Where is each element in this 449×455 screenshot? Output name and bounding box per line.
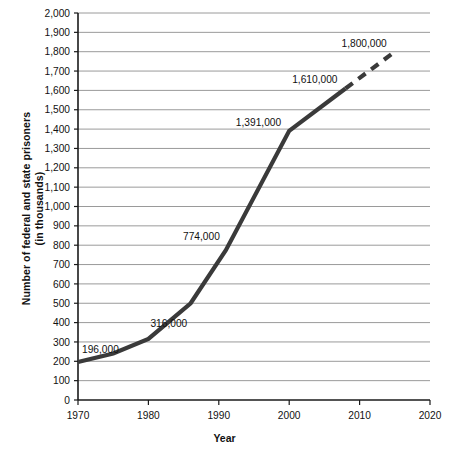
y-tick-label: 700: [53, 259, 70, 270]
data-label: 1,800,000: [341, 38, 387, 49]
prisoners-line-chart: 01002003004005006007008009001,0001,1001,…: [0, 0, 449, 455]
y-tick-label: 1,500: [45, 104, 71, 115]
data-label: 196,000: [82, 344, 119, 355]
y-tick-label: 1,400: [45, 124, 71, 135]
y-tick-label: 1,800: [45, 46, 71, 57]
y-tick-label: 1,300: [45, 143, 71, 154]
data-label: 1,391,000: [236, 117, 282, 128]
data-annotations: 196,000316,000774,0001,391,0001,610,0001…: [82, 38, 387, 355]
y-axis-title: Number of federal and state prisoners (i…: [20, 99, 45, 319]
y-tick-label: 1,000: [45, 201, 71, 212]
x-tick-label: 2000: [278, 410, 301, 421]
y-tick-label: 1,700: [45, 66, 71, 77]
y-tick-label: 1,200: [45, 162, 71, 173]
x-tick-label: 1970: [67, 410, 90, 421]
y-axis-title-line2: (in thousands): [32, 99, 45, 319]
y-tick-label: 1,900: [45, 27, 71, 38]
data-series-dashed: [346, 52, 395, 89]
y-axis-title-line1: Number of federal and state prisoners: [20, 99, 33, 319]
y-tick-label: 400: [53, 317, 70, 328]
y-tick-label: 600: [53, 279, 70, 290]
x-tick-label: 1990: [207, 410, 230, 421]
chart-canvas: 01002003004005006007008009001,0001,1001,…: [0, 0, 449, 455]
y-tick-label: 800: [53, 240, 70, 251]
x-tick-label: 2020: [419, 410, 442, 421]
y-tick-label: 2,000: [45, 8, 71, 19]
y-tick-label: 500: [53, 298, 70, 309]
y-tick-label: 900: [53, 220, 70, 231]
y-tick-label: 200: [53, 356, 70, 367]
y-tick-label: 100: [53, 375, 70, 386]
data-label: 316,000: [150, 318, 187, 329]
y-tick-label: 0: [64, 395, 70, 406]
x-axis-title: Year: [0, 432, 449, 444]
data-label: 1,610,000: [292, 74, 338, 85]
series-projected: [346, 52, 395, 89]
y-tick-label: 1,600: [45, 85, 71, 96]
y-tick-label: 300: [53, 337, 70, 348]
x-tick-label: 2010: [348, 410, 371, 421]
y-tick-label: 1,100: [45, 182, 71, 193]
y-tick-labels: 01002003004005006007008009001,0001,1001,…: [45, 8, 71, 406]
x-tick-label: 1980: [137, 410, 160, 421]
data-label: 774,000: [183, 231, 220, 242]
x-tick-labels: 197019801990200020102020: [67, 410, 442, 421]
